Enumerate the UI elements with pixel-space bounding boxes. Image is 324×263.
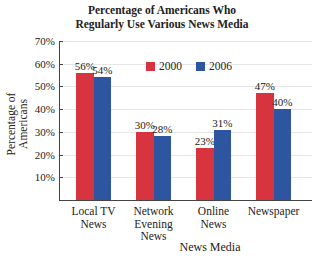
y-tick-mark xyxy=(59,41,63,42)
y-axis-label: Percentage of Americans xyxy=(5,69,29,179)
y-tick-label: 20% xyxy=(29,149,55,161)
y-tick-mark xyxy=(59,155,63,156)
x-category-label-line: News xyxy=(179,218,249,231)
legend-item-2006: 2006 xyxy=(196,60,232,72)
x-category-label: Newspaper xyxy=(239,205,309,218)
x-axis-label: News Media xyxy=(160,240,260,255)
bar-2000 xyxy=(136,132,154,200)
y-tick-label: 40% xyxy=(29,103,55,115)
bar-value-label: 28% xyxy=(149,123,175,135)
legend-label-2000: 2000 xyxy=(159,60,182,72)
bar-2006 xyxy=(154,136,172,200)
bar-2000 xyxy=(256,93,274,200)
chart-title-line-1: Percentage of Americans Who xyxy=(0,3,324,17)
y-tick-label: 10% xyxy=(29,171,55,183)
bar-2006 xyxy=(274,109,292,200)
y-tick-mark xyxy=(59,64,63,65)
x-axis-line xyxy=(59,200,312,201)
bar-2000 xyxy=(76,73,94,200)
chart-title-line-2: Regularly Use Various News Media xyxy=(0,17,324,31)
gridline xyxy=(60,41,312,42)
bar-value-label: 54% xyxy=(89,64,115,76)
y-tick-mark xyxy=(59,177,63,178)
y-tick-mark xyxy=(59,109,63,110)
bar-2006 xyxy=(94,77,112,200)
y-tick-mark xyxy=(59,132,63,133)
x-category-label-line: Newspaper xyxy=(239,205,309,218)
y-tick-label: 60% xyxy=(29,58,55,70)
legend-swatch-2000 xyxy=(146,62,155,71)
y-tick-label: 30% xyxy=(29,126,55,138)
bar-value-label: 47% xyxy=(252,80,278,92)
bar-2000 xyxy=(196,148,214,200)
bar-2006 xyxy=(214,130,232,200)
legend-item-2000: 2000 xyxy=(146,60,182,72)
y-tick-label: 50% xyxy=(29,80,55,92)
bar-value-label: 31% xyxy=(209,117,235,129)
y-tick-mark xyxy=(59,86,63,87)
legend-label-2006: 2006 xyxy=(209,60,232,72)
legend-swatch-2006 xyxy=(196,62,205,71)
y-tick-label: 70% xyxy=(29,35,55,47)
bar-value-label: 40% xyxy=(269,96,295,108)
